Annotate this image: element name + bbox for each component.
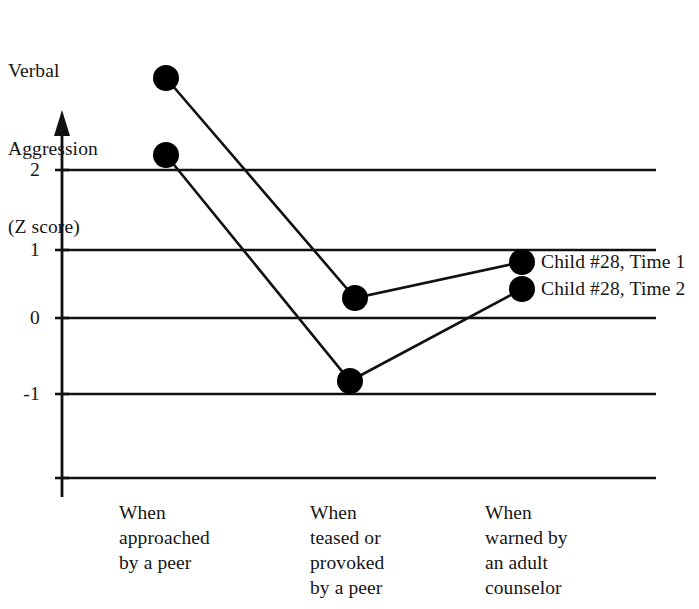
x-category-2-line-3: provoked: [310, 550, 495, 575]
data-point: [509, 249, 535, 275]
y-tick-label-minus-1: -1: [0, 384, 40, 404]
x-category-2-line-2: teased or: [310, 525, 495, 550]
x-category-1-line-1: When: [119, 500, 304, 525]
data-point: [153, 142, 179, 168]
x-category-2-line-1: When: [310, 500, 495, 525]
series-child-28-time-1: [153, 65, 535, 311]
x-category-3-line-4: counselor: [485, 575, 670, 600]
y-axis-arrow-icon: [54, 110, 70, 136]
series-1-line: [166, 78, 522, 298]
data-point: [337, 368, 363, 394]
x-category-label-2: When teased or provoked by a peer: [310, 500, 495, 600]
y-tick-label-2: 2: [0, 160, 40, 180]
x-category-3-line-2: warned by: [485, 525, 670, 550]
data-point: [509, 276, 535, 302]
x-category-1-line-3: by a peer: [119, 550, 304, 575]
y-tick-label-0: 0: [0, 308, 40, 328]
y-tick-label-1: 1: [0, 240, 40, 260]
gridlines: [62, 170, 656, 478]
x-category-1-line-2: approached: [119, 525, 304, 550]
chart-figure: Verbal Aggression (Z score): [0, 0, 699, 609]
x-category-label-1: When approached by a peer: [119, 500, 304, 575]
x-category-3-line-1: When: [485, 500, 670, 525]
x-category-3-line-3: an adult: [485, 550, 670, 575]
data-point: [342, 285, 368, 311]
x-category-label-3: When warned by an adult counselor: [485, 500, 670, 600]
y-axis: [54, 110, 70, 497]
series-2-line: [166, 155, 522, 381]
legend-entry-time-2: Child #28, Time 2: [541, 278, 686, 300]
x-category-2-line-4: by a peer: [310, 575, 495, 600]
legend-entry-time-1: Child #28, Time 1: [541, 251, 686, 273]
series-child-28-time-2: [153, 142, 535, 394]
data-point: [153, 65, 179, 91]
